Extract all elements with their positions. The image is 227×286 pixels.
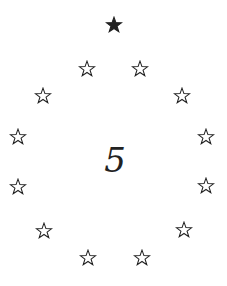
outline-star-icon: [133, 249, 151, 267]
outline-star-icon: [9, 178, 27, 196]
center-number: 5: [104, 140, 126, 180]
star-circle-figure: 5: [0, 0, 227, 286]
outline-star-icon: [175, 221, 193, 239]
outline-star-icon: [131, 60, 149, 78]
outline-star-icon: [9, 128, 27, 146]
outline-star-icon: [79, 249, 97, 267]
filled-star-icon: [105, 16, 123, 34]
outline-star-icon: [34, 87, 52, 105]
outline-star-icon: [197, 177, 215, 195]
outline-star-icon: [197, 128, 215, 146]
outline-star-icon: [78, 60, 96, 78]
outline-star-icon: [173, 87, 191, 105]
outline-star-icon: [35, 222, 53, 240]
